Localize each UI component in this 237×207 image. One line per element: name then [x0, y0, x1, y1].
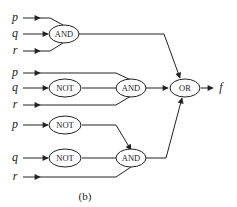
group3-wires	[23, 98, 182, 177]
output-f: f	[219, 80, 224, 94]
gate-not-1: NOT	[49, 79, 81, 97]
gate-not-1-label: NOT	[56, 83, 74, 93]
input-r-1: r	[13, 43, 18, 57]
input-r-3: r	[13, 169, 18, 183]
gate-not-2: NOT	[49, 116, 81, 134]
input-q-1: q	[12, 26, 18, 40]
gate-not-2-label: NOT	[56, 120, 74, 130]
gate-not-3-label: NOT	[56, 153, 74, 163]
input-q-2: q	[12, 80, 18, 94]
gate-and-2: AND	[116, 79, 146, 97]
input-p-3: p	[11, 117, 18, 131]
input-r-2: r	[13, 97, 18, 111]
gate-and-3: AND	[116, 149, 146, 167]
gate-and-1: AND	[49, 25, 79, 43]
input-p-2: p	[11, 65, 18, 79]
input-p-1: p	[11, 10, 18, 24]
logic-circuit-diagram: p q r p q r p q r AND NOT AND OR NOT NOT…	[0, 0, 237, 207]
gate-or: OR	[170, 79, 200, 97]
gate-or-label: OR	[179, 83, 191, 93]
gate-and-1-label: AND	[55, 29, 73, 39]
group1-wires	[23, 18, 180, 78]
gate-and-3-label: AND	[122, 153, 140, 163]
input-q-3: q	[12, 150, 18, 164]
gate-not-3: NOT	[49, 149, 81, 167]
figure-caption: (b)	[79, 190, 92, 203]
gate-and-2-label: AND	[122, 83, 140, 93]
